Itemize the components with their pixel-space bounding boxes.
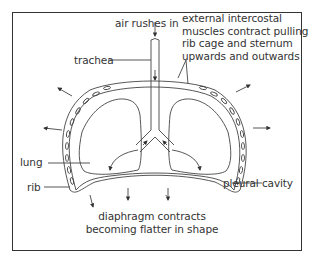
rib-cage-inner: [69, 87, 240, 190]
label-trachea: trachea: [74, 54, 114, 67]
rib-segments-left: [65, 86, 110, 185]
diaphragm: [70, 175, 240, 192]
label-pleural-cavity: pleural cavity: [223, 177, 293, 190]
right-lung: [169, 99, 231, 174]
label-intercostal-line3: rib cage and sternum: [182, 37, 293, 50]
label-intercostal-line1: external intercostal: [182, 12, 282, 25]
right-bronchus: [155, 130, 174, 152]
label-diaphragm-line2: becoming flatter in shape: [72, 223, 232, 236]
label-rib: rib: [27, 181, 41, 194]
left-bronchus: [136, 130, 155, 152]
label-diaphragm-line1: diaphragm contracts: [82, 210, 222, 223]
label-intercostal-line2: muscles contract pulling: [182, 25, 308, 38]
label-intercostal-line4: upwards and outwards: [182, 50, 300, 63]
label-air-rushes-in: air rushes in: [115, 17, 179, 30]
trachea: [151, 40, 159, 130]
label-lung: lung: [20, 156, 43, 169]
